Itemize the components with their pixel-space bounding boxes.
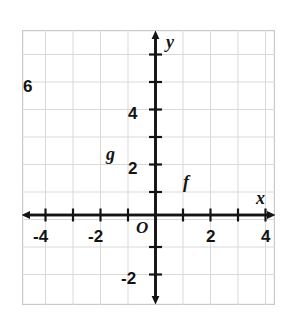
coordinate-plane: 6 4 2 -2 -4 -2 2 4 O y x g f: [22, 30, 275, 305]
function-label-f: f: [183, 173, 189, 191]
x-tick-label-neg4: -4: [33, 228, 48, 245]
function-label-g: g: [106, 145, 115, 163]
origin-label: O: [136, 219, 148, 236]
y-tick-label-neg2: -2: [121, 270, 136, 287]
x-tick-label-2: 2: [206, 228, 215, 245]
x-tick-label-neg2: -2: [88, 228, 103, 245]
y-tick-label-6: 6: [23, 78, 32, 95]
y-axis-label: y: [166, 33, 174, 51]
x-tick-label-4: 4: [261, 228, 270, 245]
graph-figure: 6 4 2 -2 -4 -2 2 4 O y x g f: [0, 0, 294, 316]
y-tick-label-2: 2: [128, 160, 137, 177]
axis-lines: [22, 30, 275, 305]
y-tick-label-4: 4: [128, 105, 137, 122]
x-axis-label: x: [256, 189, 265, 207]
